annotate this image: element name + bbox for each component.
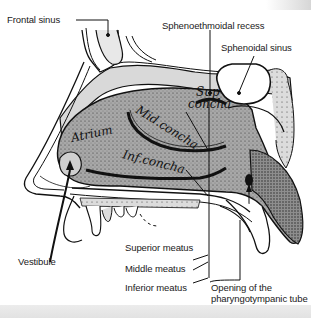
vestibule xyxy=(50,152,81,262)
superior-meatus-label: Superior meatus xyxy=(125,242,193,253)
nasal-cavity-diagram: Sup concha Mid.concha Inf.concha Atrium … xyxy=(0,0,311,318)
inferior-meatus-label: Inferior meatus xyxy=(125,282,187,293)
sphenoidal-sinus-label: Sphenoidal sinus xyxy=(221,42,292,53)
vestibule-label: Vestibule xyxy=(18,256,56,267)
sphenoethmoidal-recess-label: Sphenoethmoidal recess xyxy=(162,20,264,31)
palate-and-teeth xyxy=(64,188,252,242)
middle-meatus-label: Middle meatus xyxy=(125,263,185,274)
pharyngotympanic-tube-label: Opening of the pharyngotympanic tube xyxy=(211,282,308,304)
sup-concha-label-2: concha xyxy=(188,97,231,111)
frontal-sinus-label: Frontal sinus xyxy=(7,14,60,25)
bottom-strip xyxy=(0,305,311,318)
